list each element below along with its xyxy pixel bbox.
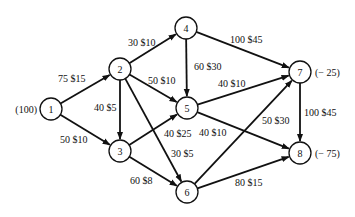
edge-label-6-7: 50 $30 — [262, 115, 290, 126]
node-supply-label: (− 25) — [315, 67, 340, 79]
node-7: 7(− 25) — [289, 61, 340, 83]
edge-label-1-3: 50 $10 — [60, 134, 88, 145]
node-1: 1(100) — [15, 98, 62, 120]
node-supply-label: (100) — [15, 104, 37, 116]
edge-label-2-5: 50 $10 — [148, 75, 176, 86]
edge-label-3-6: 60 $8 — [130, 175, 153, 186]
node-2: 2 — [109, 58, 131, 80]
node-label: 7 — [298, 67, 303, 78]
node-label: 8 — [298, 148, 303, 159]
node-label: 2 — [118, 64, 123, 75]
edge-label-2-4: 30 $10 — [128, 37, 156, 48]
edge-label-7-8: 100 $45 — [304, 107, 337, 118]
edge-label-3-5: 40 $25 — [164, 128, 192, 139]
node-label: 5 — [185, 103, 190, 114]
node-label: 1 — [49, 104, 54, 115]
node-3: 3 — [109, 140, 131, 162]
edge-4-5 — [186, 39, 187, 96]
node-6: 6 — [176, 181, 198, 203]
edge-label-1-2: 75 $15 — [58, 73, 86, 84]
node-8: 8(− 75) — [289, 142, 340, 164]
edge-label-2-6: 30 $5 — [171, 148, 194, 159]
edge-label-2-3: 40 $5 — [94, 102, 117, 113]
edge-label-4-7: 100 $45 — [230, 34, 263, 45]
node-label: 4 — [184, 23, 189, 34]
node-4: 4 — [175, 17, 197, 39]
node-supply-label: (− 75) — [315, 148, 340, 160]
edge-label-5-8: 40 $10 — [199, 127, 227, 138]
node-label: 3 — [118, 146, 123, 157]
edge-label-5-7: 40 $10 — [218, 78, 246, 89]
node-5: 5 — [176, 97, 198, 119]
network-diagram: 75 $1550 $1030 $1050 $1040 $530 $540 $25… — [0, 0, 355, 217]
edge-label-6-8: 80 $15 — [235, 177, 263, 188]
edge-label-4-5: 60 $30 — [194, 61, 222, 72]
node-label: 6 — [185, 187, 190, 198]
